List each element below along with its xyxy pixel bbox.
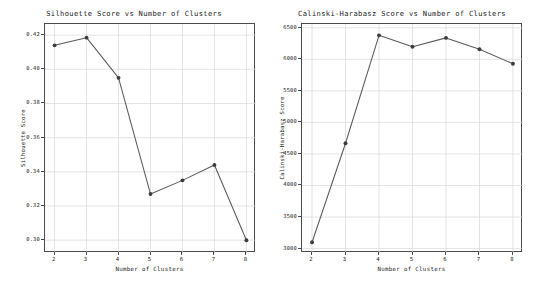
y-tick-label: 3000: [283, 245, 297, 251]
x-tick-mark: [181, 252, 182, 255]
y-tick-label: 0.34: [26, 168, 40, 174]
y-axis-label: Calinski-Harabasz Score: [279, 96, 285, 179]
x-tick-label: 6: [443, 256, 446, 262]
y-tick-label: 0.38: [26, 99, 40, 105]
y-tick-mark: [298, 58, 301, 59]
x-tick-mark: [512, 252, 513, 255]
y-tick-label: 5500: [283, 87, 297, 93]
x-tick-mark: [86, 252, 87, 255]
y-tick-mark: [41, 102, 44, 103]
y-tick-label: 5000: [283, 118, 297, 124]
y-tick-label: 6000: [283, 55, 297, 61]
y-tick-label: 0.30: [26, 236, 40, 242]
y-tick-mark: [298, 216, 301, 217]
y-tick-mark: [298, 248, 301, 249]
x-tick-label: 4: [376, 256, 379, 262]
x-tick-label: 5: [410, 256, 413, 262]
y-tick-mark: [41, 34, 44, 35]
x-tick-mark: [412, 252, 413, 255]
y-tick-mark: [298, 153, 301, 154]
y-tick-label: 4000: [283, 181, 297, 187]
x-tick-mark: [311, 252, 312, 255]
chart-title: Silhouette Score vs Number of Clusters: [0, 9, 268, 18]
x-tick-label: 5: [148, 256, 151, 262]
x-tick-mark: [345, 252, 346, 255]
x-tick-label: 8: [244, 256, 247, 262]
y-tick-label: 0.32: [26, 202, 40, 208]
chart-title: Calinski-Harabasz Score vs Number of Clu…: [268, 9, 536, 18]
y-tick-label: 0.42: [26, 31, 40, 37]
x-tick-label: 2: [52, 256, 55, 262]
x-tick-mark: [54, 252, 55, 255]
series-calinski-harabasz: [302, 24, 523, 253]
x-tick-label: 7: [212, 256, 215, 262]
y-tick-label: 6500: [283, 24, 297, 30]
y-tick-mark: [41, 239, 44, 240]
x-tick-label: 6: [180, 256, 183, 262]
figure-canvas: Silhouette Score vs Number of Clusters S…: [0, 0, 536, 284]
plot-area: [301, 23, 522, 252]
x-tick-label: 4: [116, 256, 119, 262]
x-tick-label: 8: [510, 256, 513, 262]
y-tick-label: 4500: [283, 150, 297, 156]
x-axis-label: Number of Clusters: [301, 266, 522, 272]
y-tick-mark: [41, 205, 44, 206]
plot-area: [44, 23, 255, 252]
y-tick-mark: [298, 90, 301, 91]
y-tick-mark: [298, 184, 301, 185]
y-tick-label: 0.40: [26, 65, 40, 71]
x-tick-mark: [213, 252, 214, 255]
x-tick-mark: [445, 252, 446, 255]
x-tick-label: 7: [477, 256, 480, 262]
x-tick-mark: [150, 252, 151, 255]
series-silhouette: [45, 24, 256, 253]
x-axis-label: Number of Clusters: [44, 266, 255, 272]
x-tick-label: 2: [309, 256, 312, 262]
x-tick-label: 3: [84, 256, 87, 262]
y-tick-mark: [298, 27, 301, 28]
y-tick-mark: [41, 68, 44, 69]
x-tick-mark: [118, 252, 119, 255]
y-tick-label: 3500: [283, 213, 297, 219]
x-tick-mark: [378, 252, 379, 255]
y-tick-mark: [41, 171, 44, 172]
y-tick-label: 0.36: [26, 134, 40, 140]
x-tick-mark: [478, 252, 479, 255]
chart-panel-silhouette: Silhouette Score vs Number of Clusters S…: [0, 0, 268, 284]
y-tick-mark: [41, 137, 44, 138]
y-axis-label: Silhouette Score: [20, 109, 26, 167]
x-tick-mark: [245, 252, 246, 255]
chart-panel-calinski-harabasz: Calinski-Harabasz Score vs Number of Clu…: [268, 0, 536, 284]
x-tick-label: 3: [343, 256, 346, 262]
y-tick-mark: [298, 121, 301, 122]
